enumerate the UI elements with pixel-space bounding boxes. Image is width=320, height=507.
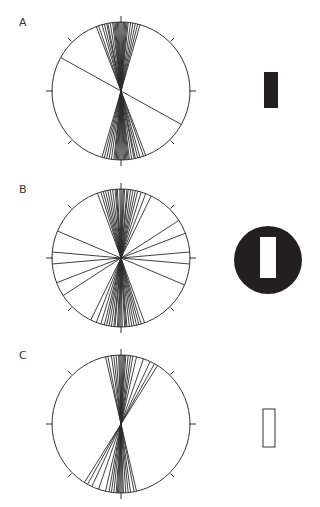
tick-mark (170, 38, 174, 42)
tick-mark (170, 307, 174, 311)
tick-mark (68, 38, 72, 42)
tick-mark (170, 473, 174, 477)
panel-c-shape (263, 409, 275, 447)
rose-diagrams (0, 0, 320, 507)
tick-mark (68, 371, 72, 375)
panel-a-shape (264, 72, 278, 108)
panel-b-rose (46, 183, 196, 333)
panel-c-rose (46, 349, 196, 499)
panel-a-rose (46, 16, 196, 166)
outline-rectangle (263, 409, 275, 447)
slot-rectangle (260, 237, 276, 278)
tick-mark (170, 140, 174, 144)
tick-mark (170, 205, 174, 209)
panel-b-shape (234, 226, 302, 294)
tick-mark (68, 205, 72, 209)
tick-mark (68, 140, 72, 144)
tick-mark (170, 371, 174, 375)
filled-rectangle (264, 72, 278, 108)
tick-mark (68, 473, 72, 477)
tick-mark (68, 307, 72, 311)
